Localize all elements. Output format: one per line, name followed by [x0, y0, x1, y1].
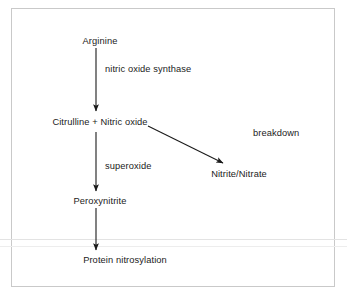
arrow-citrulline-to-nitrite-nitrate [148, 126, 223, 163]
node-arginine: Arginine [83, 36, 118, 47]
node-citrulline-nitric-oxide: Citrulline + Nitric oxide [52, 117, 147, 128]
arrow-layer [0, 0, 347, 299]
diagram-canvas: Arginine nitric oxide synthase Citrullin… [0, 0, 347, 299]
node-peroxynitrite: Peroxynitrite [74, 196, 127, 207]
edge-label-superoxide: superoxide [105, 161, 151, 172]
edge-label-nitric-oxide-synthase: nitric oxide synthase [105, 64, 191, 75]
node-protein-nitrosylation: Protein nitrosylation [83, 255, 167, 266]
edge-label-breakdown: breakdown [253, 128, 299, 139]
node-nitrite-nitrate: Nitrite/Nitrate [211, 169, 267, 180]
